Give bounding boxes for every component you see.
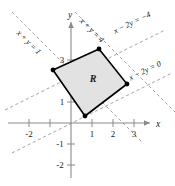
line-label-x-minus-2y-equals-0: x − 2y = 0 (126, 59, 162, 83)
line-label-x-minus-2y-equals-minus-4: x − 2y = −4 (111, 10, 152, 36)
tick-label-y-3: 3 (60, 55, 65, 65)
x-axis-label: x (155, 119, 161, 129)
vertex-dot (51, 68, 56, 73)
tick-label-x-1: 1 (90, 129, 95, 139)
line-label-x-plus-y-equals-1: x + y = 1 (14, 28, 43, 57)
math-figure: -2 1 2 3 3 1 -1 -2 x y R x + y = 1 x + y… (0, 0, 175, 186)
vertex-dot (83, 114, 88, 119)
vertex-dot (125, 82, 130, 87)
region-label-R: R (89, 73, 97, 84)
tick-label-y-minus-2: -2 (56, 160, 64, 170)
vertex-dot (97, 47, 102, 52)
tick-label-x-minus-2: -2 (25, 129, 33, 139)
tick-label-x-3: 3 (132, 129, 137, 139)
coordinate-plot: -2 1 2 3 3 1 -1 -2 x y R x + y = 1 x + y… (0, 0, 175, 186)
y-axis-label: y (67, 10, 73, 20)
y-axis-arrow (68, 22, 74, 28)
tick-label-y-minus-1: -1 (56, 139, 64, 149)
tick-label-y-1: 1 (60, 97, 65, 107)
tick-label-x-2: 2 (111, 129, 116, 139)
line-label-x-plus-y-equals-4: x + y = 4 (77, 16, 106, 45)
x-axis-arrow (144, 120, 150, 126)
